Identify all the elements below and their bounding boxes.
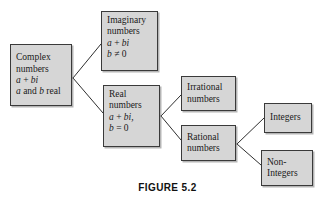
node-complex-line-4: a and b real [11, 86, 61, 97]
node-irrational-numbers[interactable]: Irrational numbers [181, 76, 236, 111]
node-irrational-line-2: numbers [182, 94, 220, 105]
edge-complex-to-real [73, 78, 103, 113]
node-real-line-3: a + bi, [109, 112, 159, 123]
node-integers[interactable]: Integers [264, 103, 312, 133]
node-non-integers[interactable]: Non- Integers [261, 150, 313, 186]
figure-container: Complex numbers a + bi a and b real Imag… [0, 0, 335, 204]
node-imaginary-line-1: Imaginary [107, 15, 157, 26]
node-complex-line-3: a + bi [11, 75, 38, 86]
node-irrational-line-1: Irrational [182, 82, 222, 93]
node-imaginary-line-4: b ≠ 0 [107, 49, 157, 60]
node-integers-line-1: Integers [265, 112, 301, 123]
node-real-line-1: Real [109, 89, 159, 100]
edge-complex-to-imaginary [73, 44, 101, 78]
node-rational-line-2: numbers [182, 143, 220, 154]
node-real-line-2: numbers [109, 100, 159, 111]
edge-real-to-rational [161, 116, 181, 140]
node-non-integers-line-2: Integers [262, 168, 298, 179]
node-rational-line-1: Rational [182, 132, 219, 143]
node-non-integers-line-1: Non- [262, 157, 287, 168]
node-complex-numbers[interactable]: Complex numbers a + bi a and b real [10, 44, 72, 106]
node-rational-numbers[interactable]: Rational numbers [181, 125, 236, 161]
edge-rational-to-integers [237, 118, 264, 144]
node-real-line-4: b = 0 [109, 123, 159, 134]
edge-real-to-irrational [161, 95, 181, 116]
node-complex-line-1: Complex [11, 52, 51, 63]
node-imaginary-line-2: numbers [107, 26, 157, 37]
node-imaginary-numbers[interactable]: Imaginary numbers a + bi b ≠ 0 [101, 11, 158, 71]
edge-rational-to-noninteger [237, 144, 261, 165]
node-imaginary-line-3: a + bi [107, 38, 157, 49]
node-real-numbers[interactable]: Real numbers a + bi, b = 0 [103, 85, 160, 147]
node-complex-line-2: numbers [11, 64, 49, 75]
